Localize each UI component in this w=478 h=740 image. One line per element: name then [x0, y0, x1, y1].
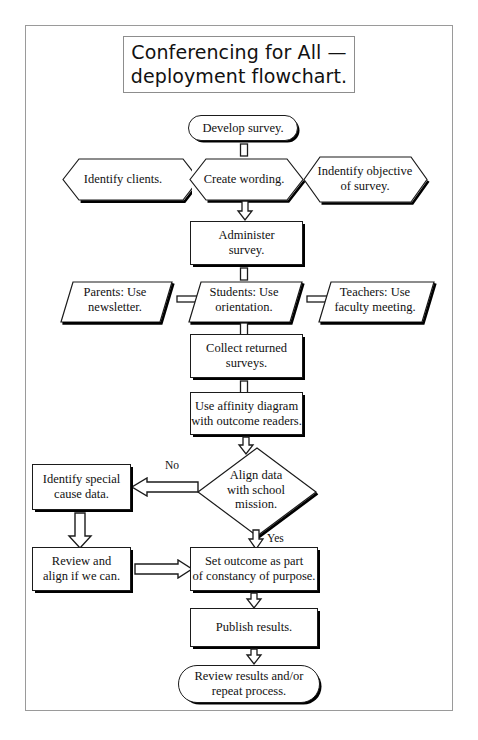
- node-review-align[interactable]: Review and align if we can.: [32, 547, 131, 591]
- arrow-left-icon: [130, 477, 200, 497]
- connector-special-to-review: [67, 512, 93, 550]
- node-publish-label: Publish results.: [216, 620, 292, 635]
- arrow-down-icon: [236, 200, 254, 222]
- chart-title-box: Conferencing for All — deployment flowch…: [123, 36, 355, 93]
- connector-wording-to-administer: [236, 200, 254, 222]
- node-parents-newsletter[interactable]: Parents: Use newsletter.: [60, 280, 170, 320]
- node-parents-line2: newsletter.: [88, 300, 142, 315]
- node-teachers-line2: faculty meeting.: [334, 300, 415, 315]
- node-collect-line2: surveys.: [226, 356, 267, 371]
- node-identify-clients-label: Identify clients.: [84, 172, 162, 187]
- node-align-line3: mission.: [235, 497, 277, 512]
- edge-label-no: No: [165, 459, 179, 471]
- node-students-line2: orientation.: [215, 300, 272, 315]
- node-align-line1: Align data: [230, 468, 282, 483]
- node-students-orientation[interactable]: Students: Use orientation.: [188, 280, 300, 320]
- node-identify-objective[interactable]: Indentify objective of survey.: [301, 155, 429, 203]
- node-administer-survey-line1: Administer: [218, 228, 274, 243]
- chart-title-line2: deployment flowchart.: [131, 65, 347, 88]
- node-collect-surveys[interactable]: Collect returned surveys.: [190, 334, 303, 378]
- node-create-wording[interactable]: Create wording.: [187, 157, 301, 201]
- connector-administer-to-students: [238, 267, 250, 281]
- node-setoutcome-line2: of constancy of purpose.: [193, 569, 316, 584]
- node-identify-special-cause[interactable]: Identify special cause data.: [32, 464, 131, 510]
- node-special-line1: Identify special: [43, 472, 120, 487]
- node-align-line2: with school: [227, 483, 285, 498]
- flowchart-canvas: Conferencing for All — deployment flowch…: [0, 0, 478, 740]
- arrow-down-icon: [245, 648, 263, 666]
- node-special-line2: cause data.: [54, 487, 109, 502]
- connector-review-to-setoutcome: [134, 559, 194, 579]
- node-teachers-line1: Teachers: Use: [340, 285, 410, 300]
- node-develop-survey-label: Develop survey.: [202, 121, 283, 136]
- connector-develop-to-wording: [238, 143, 250, 157]
- node-review-line1: Review and: [52, 554, 111, 569]
- node-identify-objective-line1: Indentify objective: [318, 164, 413, 179]
- node-create-wording-label: Create wording.: [204, 172, 285, 187]
- node-affinity-diagram[interactable]: Use affinity diagram with outcome reader…: [190, 392, 303, 435]
- node-affinity-line1: Use affinity diagram: [195, 399, 298, 414]
- node-final-review[interactable]: Review results and/or repeat process.: [178, 665, 320, 703]
- node-identify-objective-line2: of survey.: [340, 179, 389, 194]
- node-collect-line1: Collect returned: [206, 341, 287, 356]
- node-identify-clients[interactable]: Identify clients.: [59, 157, 187, 201]
- node-administer-survey-line2: survey.: [229, 243, 265, 258]
- node-students-line1: Students: Use: [209, 285, 278, 300]
- node-administer-survey[interactable]: Administer survey.: [190, 221, 303, 265]
- node-final-line2: repeat process.: [212, 684, 286, 699]
- node-develop-survey[interactable]: Develop survey.: [188, 115, 298, 141]
- node-align-decision[interactable]: Align data with school mission.: [196, 446, 316, 534]
- node-parents-line1: Parents: Use: [84, 285, 147, 300]
- arrow-right-icon: [134, 559, 194, 579]
- node-publish-results[interactable]: Publish results.: [190, 608, 318, 647]
- chart-title-line1: Conferencing for All —: [131, 41, 346, 64]
- node-set-outcome[interactable]: Set outcome as part of constancy of purp…: [190, 547, 318, 591]
- node-review-line2: align if we can.: [43, 569, 120, 584]
- connector-publish-to-final: [245, 648, 263, 666]
- arrow-down-icon: [67, 512, 93, 550]
- connector-decision-no-left: [130, 477, 200, 497]
- node-affinity-line2: with outcome readers.: [191, 414, 302, 429]
- node-teachers-faculty-meeting[interactable]: Teachers: Use faculty meeting.: [318, 280, 432, 320]
- node-setoutcome-line1: Set outcome as part: [205, 554, 303, 569]
- node-final-line1: Review results and/or: [194, 669, 303, 684]
